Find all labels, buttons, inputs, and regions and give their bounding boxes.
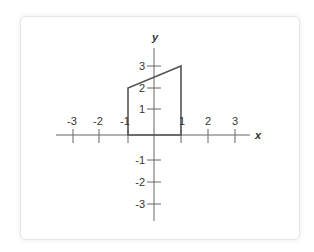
x-tick-label: -2 bbox=[93, 115, 103, 127]
y-tick-label: -3 bbox=[135, 198, 145, 210]
x-tick-label: -1 bbox=[120, 115, 130, 127]
y-tick-label: 2 bbox=[139, 82, 145, 94]
x-axis-label: x bbox=[254, 129, 262, 141]
x-tick-label: -3 bbox=[67, 115, 77, 127]
x-tick-label: 1 bbox=[179, 115, 185, 127]
y-tick-label: -2 bbox=[135, 176, 145, 188]
y-axis-label: y bbox=[151, 31, 159, 43]
coordinate-plane: -3 -2 -1 1 2 3 3 2 1 -1 -2 -3 x y bbox=[0, 0, 314, 252]
y-tick-label: -1 bbox=[135, 154, 145, 166]
x-tick-label: 2 bbox=[205, 115, 211, 127]
y-tick-label: 1 bbox=[139, 103, 145, 115]
x-tick-label: 3 bbox=[232, 115, 238, 127]
y-tick-label: 3 bbox=[139, 60, 145, 72]
